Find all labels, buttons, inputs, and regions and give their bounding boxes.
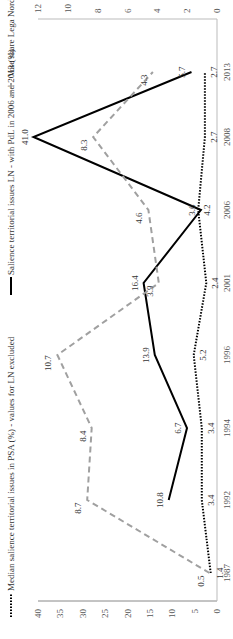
left-tick-label: 25 [100,609,110,619]
series-lines [34,72,211,573]
dotted-data-label: 2.4 [210,277,220,289]
right-tick-label: 0 [212,8,222,13]
solid-data-label: 5.7 [177,66,187,78]
dotted-data-label: 1.4 [215,567,225,579]
right-tick-label: 2 [182,9,192,14]
left-tick-label: 0 [212,609,222,614]
left-tick-label: 15 [145,609,155,619]
solid-data-label: 10.8 [155,492,165,508]
dotted-data-label: 3.4 [206,422,216,434]
x-tick-label: 1996 [222,346,232,365]
legend-vote: Vote share Lega Nord (%) [6,0,16,77]
dotted-data-label: 4.2 [202,204,212,215]
dotted-data-label: 2.7 [209,131,219,143]
x-tick-label: 2008 [222,128,232,147]
dashed-data-label: 8.4 [78,430,88,442]
x-tick-label: 1992 [222,491,232,509]
left-tick-label: 20 [123,609,133,619]
right-tick-label: 12 [33,4,43,13]
x-axis-ticks: 19871992199419962001200620082013 [222,63,232,583]
legend: Median salience territorial issues in PS… [6,0,16,617]
left-tick-label: 10 [167,609,177,619]
left-tick-label: 40 [33,609,43,619]
dotted-data-label: 2.7 [209,66,219,78]
right-tick-label: 10 [63,4,73,14]
solid-series-line [34,72,201,500]
solid-data-label: 6.7 [173,422,183,434]
x-tick-label: 2006 [222,201,232,220]
legend-median: Median salience territorial issues in PS… [6,336,16,591]
dashed-data-label: 10.7 [43,355,53,371]
solid-data-label: 41.0 [20,129,30,145]
left-tick-label: 35 [55,609,65,619]
right-tick-label: 6 [123,8,133,13]
left-tick-label: 5 [190,609,200,614]
dashed-data-label: 4.3 [139,74,149,86]
dashed-data-label: 8.3 [79,139,89,151]
dashed-data-label: 0.5 [196,575,206,587]
line-chart: Median salience territorial issues in PS… [0,0,233,639]
right-axis-ticks: 024681012 [33,4,222,14]
rotated-chart-container: Median salience territorial issues in PS… [0,0,233,639]
solid-data-label: 3.6 [187,204,197,216]
dashed-data-label: 3.9 [145,285,155,297]
dotted-data-label: 3.4 [206,494,216,506]
dotted-data-label: 5.2 [198,349,208,360]
solid-data-label: 13.9 [141,347,151,363]
dashed-data-label: 4.6 [134,212,144,224]
x-tick-label: 1994 [222,419,232,438]
right-tick-label: 8 [93,8,103,13]
x-tick-label: 2001 [222,274,232,292]
right-tick-label: 4 [152,8,162,13]
left-axis-ticks: 0510152025303540 [33,609,222,619]
solid-data-label: 16.4 [130,275,140,291]
left-tick-label: 30 [78,609,88,619]
x-tick-label: 2013 [222,63,232,82]
dashed-data-label: 8.7 [73,502,83,514]
